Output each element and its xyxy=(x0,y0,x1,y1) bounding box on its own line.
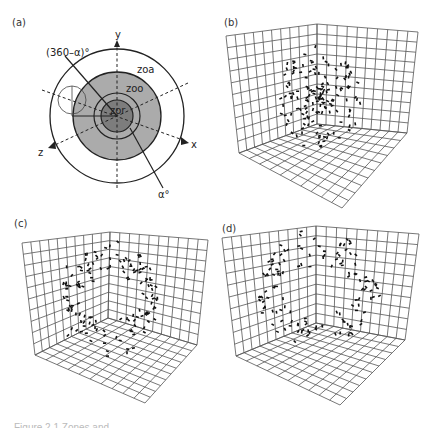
panel-label-b: (b) xyxy=(224,17,238,28)
grid-box xyxy=(22,232,208,403)
zor-label: zor xyxy=(110,105,126,116)
panel-label-c: (c) xyxy=(14,218,27,229)
panel-label-a: (a) xyxy=(12,17,26,28)
axis-label-x: x xyxy=(191,139,197,150)
axis-label-z: z xyxy=(38,147,43,158)
blind-angle-label: (360–α)° xyxy=(46,47,89,58)
panel-b: (b) xyxy=(224,17,418,208)
figure: (a) y x z zoa zoo zor (360–α)° α° xyxy=(0,0,436,428)
zoo-label: zoo xyxy=(126,83,144,94)
grid-box xyxy=(226,24,418,208)
zoa-label: zoa xyxy=(137,64,155,75)
panel-d: (d) xyxy=(222,223,419,405)
grid-box xyxy=(222,226,419,405)
panel-c: (c) xyxy=(14,218,208,403)
particle-cloud xyxy=(258,231,381,343)
x-arrow-icon xyxy=(181,137,189,145)
panel-label-d: (d) xyxy=(222,223,236,234)
z-arrow-icon xyxy=(48,141,56,149)
y-arrow-icon xyxy=(114,40,120,47)
alpha-angle-label: α° xyxy=(158,189,170,200)
axis-label-y: y xyxy=(115,29,121,40)
figure-caption: Figure 2.1 Zones and xyxy=(14,421,109,428)
panel-a: (a) y x z zoa zoo zor (360–α)° α° xyxy=(12,17,197,200)
